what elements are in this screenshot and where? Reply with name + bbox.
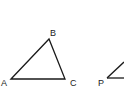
vertex-label-p: P	[98, 78, 104, 88]
geometry-diagram: A B C P	[0, 0, 124, 101]
vertex-label-a: A	[1, 78, 7, 88]
triangle-abc	[11, 39, 65, 79]
vertex-label-b: B	[50, 28, 56, 38]
triangle-p-partial	[107, 62, 124, 78]
vertex-label-c: C	[70, 78, 77, 88]
